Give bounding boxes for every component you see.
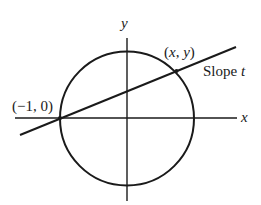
x-var: x — [169, 44, 176, 60]
x-axis-label: x — [241, 110, 248, 125]
slope-prefix: Slope — [203, 63, 241, 79]
point-minus-one-zero — [58, 116, 62, 120]
slope-label: Slope t — [203, 64, 245, 79]
paren-close: ) — [190, 44, 195, 60]
y-var: y — [183, 44, 190, 60]
point-x-y-label: (x, y) — [164, 45, 195, 60]
point-x-y — [175, 69, 179, 73]
point-minus-one-zero-label: (−1, 0) — [12, 99, 53, 114]
slope-line — [20, 47, 236, 135]
slope-var: t — [241, 63, 245, 79]
y-axis-label: y — [121, 16, 128, 31]
